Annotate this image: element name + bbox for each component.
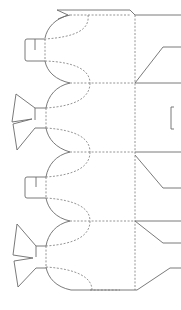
dieline-diagram: Box die-cut template xyxy=(0,0,181,310)
hook-tab-2 xyxy=(25,177,46,198)
bow-tab-1 xyxy=(12,94,46,150)
lobe-1 xyxy=(45,15,90,83)
lobe-4 xyxy=(46,221,92,290)
bow-tab-2 xyxy=(13,224,46,287)
lobe-2 xyxy=(46,83,90,152)
panel-fold-lines xyxy=(70,15,135,290)
top-edge xyxy=(57,10,181,19)
hook-tab-1 xyxy=(25,39,45,61)
slot-bracket xyxy=(171,107,174,129)
right-flap-lines xyxy=(71,47,181,290)
lobe-3 xyxy=(46,152,90,221)
